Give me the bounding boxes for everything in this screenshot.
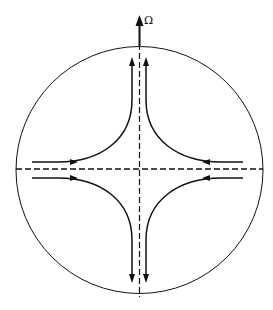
- arrowhead-icon: [136, 15, 144, 26]
- arrowhead-icon: [202, 175, 210, 181]
- streamline-lower-left: [32, 178, 132, 280]
- arrowhead-icon: [202, 159, 210, 165]
- rotation-axis-arrow: [136, 15, 144, 46]
- arrowhead-icon: [143, 57, 149, 66]
- streamline-upper-right: [146, 60, 243, 162]
- omega-label: Ω: [144, 14, 153, 27]
- arrowhead-icon: [129, 57, 135, 66]
- flow-diagram: Ω: [0, 0, 273, 310]
- streamline-upper-left: [32, 60, 132, 162]
- arrowhead-icon: [129, 274, 135, 283]
- streamline-lower-right: [146, 178, 243, 280]
- arrowhead-icon: [143, 274, 149, 283]
